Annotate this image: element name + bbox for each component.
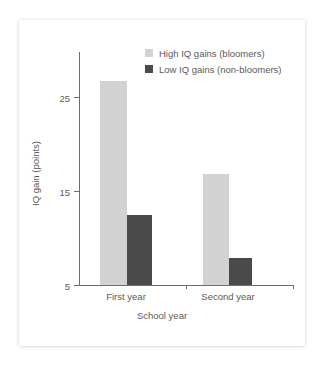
bar-second-year-high [203, 174, 229, 285]
y-tick-label-5: 5 [65, 280, 70, 291]
bar-chart: 25 15 5 First year Second year School ye… [19, 20, 305, 346]
y-axis-line [79, 52, 80, 286]
y-axis-title: IQ gain (points) [30, 114, 41, 234]
x-axis-title: School year [19, 310, 305, 321]
chart-legend: High IQ gains (bloomers) Low IQ gains (n… [145, 46, 282, 78]
y-tick-label-15: 15 [59, 186, 70, 197]
x-category-label-second-year: Second year [201, 291, 254, 302]
legend-item-low: Low IQ gains (non-bloomers) [145, 62, 282, 76]
legend-swatch-high-icon [145, 49, 153, 57]
x-tick-end [293, 285, 294, 289]
legend-label-high: High IQ gains (bloomers) [159, 48, 265, 59]
legend-swatch-low-icon [145, 65, 153, 73]
y-tick-label-25: 25 [59, 92, 70, 103]
legend-item-high: High IQ gains (bloomers) [145, 46, 282, 60]
y-tick-5: 5 [74, 285, 79, 286]
bar-first-year-low [127, 215, 152, 285]
x-tick-separator [186, 285, 187, 289]
legend-label-low: Low IQ gains (non-bloomers) [159, 64, 282, 75]
y-tick-15: 15 [74, 191, 79, 192]
figure-card: 25 15 5 First year Second year School ye… [19, 20, 305, 346]
bar-first-year-high [100, 81, 127, 285]
bar-second-year-low [229, 258, 252, 285]
x-category-label-first-year: First year [106, 291, 146, 302]
y-tick-25: 25 [74, 97, 79, 98]
